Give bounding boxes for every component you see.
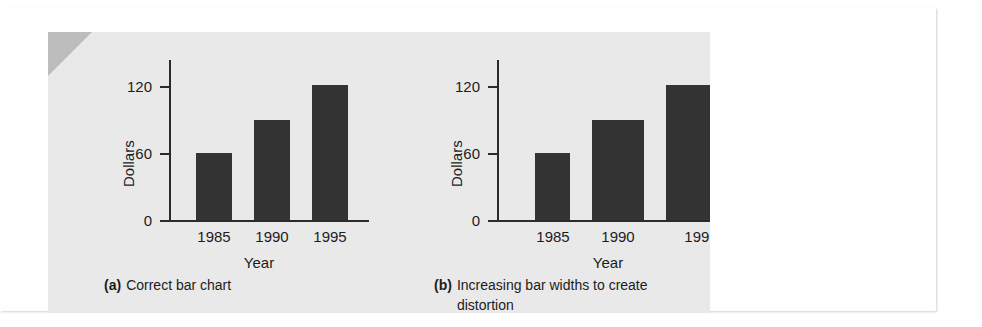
chart-a-bar-1990 <box>254 120 290 220</box>
chart-b-plot-area: Dollars 120 60 0 <box>378 32 710 242</box>
chart-b-tick-mark-60 <box>488 153 497 155</box>
caption-a-key: (a) <box>104 277 121 293</box>
caption-a-text: Correct bar chart <box>126 277 231 293</box>
chart-a-plot-area: Dollars 120 60 0 <box>48 32 378 242</box>
chart-b-bar-1990 <box>592 120 644 220</box>
chart-a-bar-1985 <box>196 153 232 220</box>
chart-a-y-tick-label-120: 120 <box>108 78 152 95</box>
chart-b-x-tick-label-1990: 1990 <box>588 228 648 245</box>
chart-a-bar-1995 <box>312 85 348 220</box>
caption-b-key: (b) <box>434 277 452 293</box>
chart-a: Dollars 120 60 0 <box>48 32 378 313</box>
figure-root: Dollars 120 60 0 <box>0 0 982 327</box>
chart-b-x-axis-line <box>497 220 710 222</box>
chart-b-y-tick-label-60: 60 <box>436 145 480 162</box>
chart-a-x-tick-label-1990: 1990 <box>242 228 302 245</box>
chart-a-y-axis-line <box>169 60 171 221</box>
chart-a-tick-mark-120 <box>160 86 169 88</box>
caption-b-text: Increasing bar widths to create distorti… <box>457 275 672 313</box>
chart-a-tick-mark-60 <box>160 153 169 155</box>
caption-b: (b)Increasing bar widths to create disto… <box>434 275 704 313</box>
chart-a-y-tick-label-60: 60 <box>108 145 152 162</box>
chart-b-x-axis-title: Year <box>548 254 668 271</box>
chart-b-tick-mark-120 <box>488 86 497 88</box>
chart-b-y-tick-label-120: 120 <box>436 78 480 95</box>
chart-a-x-axis-line <box>169 220 369 222</box>
chart-a-x-tick-label-1995: 1995 <box>300 228 360 245</box>
chart-b-x-tick-label-1985: 1985 <box>523 228 583 245</box>
chart-a-y-tick-label-0: 0 <box>108 212 152 229</box>
chart-b-y-tick-label-0: 0 <box>436 212 480 229</box>
chart-a-tick-mark-0 <box>160 220 169 222</box>
chart-b-y-axis-line <box>497 60 499 221</box>
chart-a-x-tick-label-1985: 1985 <box>184 228 244 245</box>
chart-b-bar-1985 <box>535 153 570 220</box>
chart-a-x-axis-title: Year <box>199 254 319 271</box>
chart-b-tick-mark-0 <box>488 220 497 222</box>
chart-b-x-tick-label-1995: 1995 <box>671 228 710 245</box>
caption-a: (a)Correct bar chart <box>104 275 344 295</box>
chart-b-bar-1995 <box>666 85 710 220</box>
figure-panel: Dollars 120 60 0 <box>48 32 710 313</box>
chart-b: Dollars 120 60 0 <box>378 32 710 313</box>
page-sheet: Dollars 120 60 0 <box>0 8 936 311</box>
